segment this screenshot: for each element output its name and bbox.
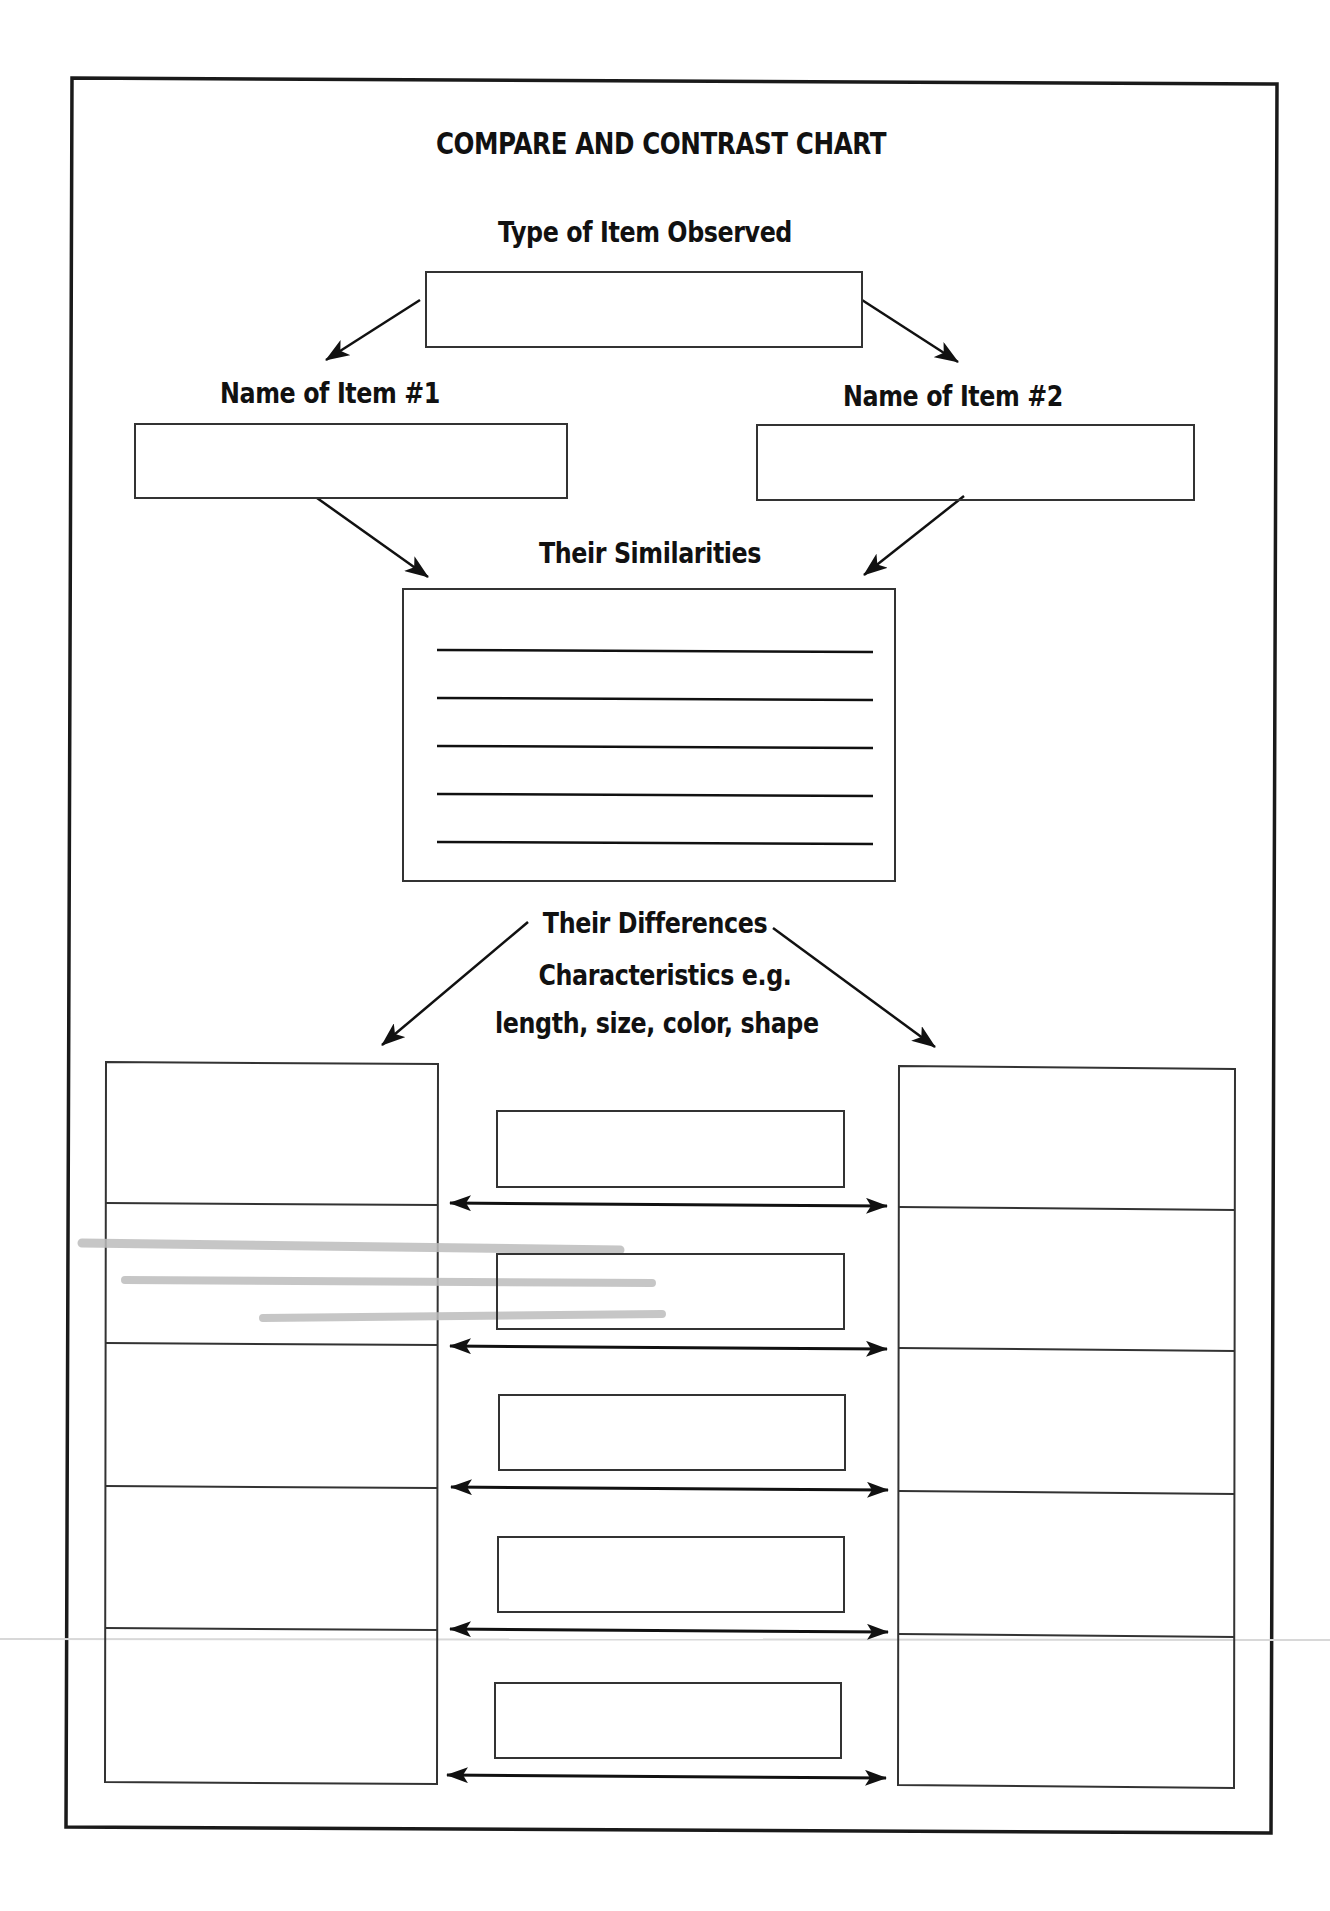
item1-name-label: Name of Item #1	[207, 376, 453, 410]
item1-difference-cell[interactable]	[108, 1489, 436, 1627]
type-of-item-field[interactable]	[425, 271, 863, 348]
characteristic-field-2[interactable]	[496, 1253, 845, 1330]
item2-difference-cell[interactable]	[901, 1068, 1233, 1206]
item2-difference-cell[interactable]	[901, 1210, 1233, 1347]
characteristic-field-4[interactable]	[497, 1536, 845, 1613]
type-of-item-label: Type of Item Observed	[461, 215, 830, 249]
item2-name-field[interactable]	[756, 424, 1195, 501]
arrow-item1-to-similarities	[317, 498, 428, 577]
characteristics-label-line1: Characteristics e.g.	[530, 958, 801, 992]
characteristic-field-5[interactable]	[494, 1682, 842, 1759]
arrow-item2-to-similarities	[864, 496, 964, 575]
arrow-type-to-item2	[862, 300, 958, 362]
differences-label: Their Differences	[532, 906, 778, 940]
item1-difference-cell[interactable]	[108, 1206, 436, 1342]
worksheet-title: COMPARE AND CONTRAST CHART	[436, 126, 854, 161]
item2-difference-cell[interactable]	[901, 1637, 1233, 1784]
characteristics-label-line2: length, size, color, shape	[495, 1006, 815, 1040]
item1-name-field[interactable]	[134, 423, 568, 499]
characteristic-field-1[interactable]	[496, 1110, 845, 1188]
item2-difference-cell[interactable]	[901, 1351, 1233, 1490]
characteristic-field-3[interactable]	[498, 1394, 846, 1471]
item2-difference-cell[interactable]	[901, 1494, 1233, 1633]
similarities-field[interactable]	[402, 588, 896, 882]
item1-difference-cell[interactable]	[108, 1346, 436, 1485]
item2-name-label: Name of Item #2	[830, 379, 1076, 413]
arrow-type-to-item1	[326, 300, 420, 360]
item1-difference-cell[interactable]	[108, 1631, 436, 1781]
item1-difference-cell[interactable]	[108, 1064, 436, 1202]
similarities-label: Their Similarities	[527, 536, 773, 570]
